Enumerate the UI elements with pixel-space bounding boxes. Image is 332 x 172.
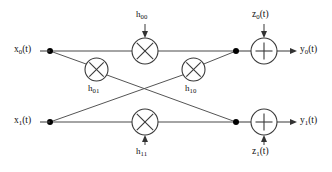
dot-y0-sum <box>233 48 239 54</box>
wire-mult-h01-to-sum-y1 <box>106 75 237 123</box>
signal-flow-canvas <box>0 0 332 172</box>
label-input-x1: x1(t) <box>14 116 31 126</box>
label-noise-z1: z1(t) <box>252 147 269 157</box>
mult-h11 <box>132 109 158 135</box>
wire-mult-h10-to-sum-y0 <box>203 51 237 65</box>
label-output-y1: y1(t) <box>300 116 317 126</box>
label-gain-h10: h10 <box>185 84 196 93</box>
arrow-h11-into-multiplier <box>142 135 148 142</box>
arrow-output-y0 <box>290 48 297 54</box>
mult-h00 <box>132 38 158 64</box>
arrow-h00-into-multiplier <box>142 31 148 38</box>
mult-h01 <box>85 58 108 81</box>
mimo-signal-flow-diagram: x0(t) x1(t) y0(t) y1(t) z0(t) z1(t) h00 … <box>0 0 332 172</box>
adder-y0 <box>251 38 277 64</box>
label-gain-h00: h00 <box>136 10 147 19</box>
label-noise-z0: z0(t) <box>252 10 269 20</box>
arrow-output-y1 <box>290 119 297 125</box>
wire-x1-to-mult-h10 <box>50 75 184 123</box>
arrow-z1-into-adder <box>261 135 267 142</box>
label-input-x0: x0(t) <box>14 45 31 55</box>
arrow-z0-into-adder <box>261 31 267 38</box>
wire-x0-to-mult-h01 <box>50 51 88 65</box>
dot-y1-sum <box>233 119 239 125</box>
mult-h10 <box>182 58 205 81</box>
label-gain-h11: h11 <box>136 147 147 156</box>
adder-y1 <box>251 109 277 135</box>
label-output-y0: y0(t) <box>300 45 317 55</box>
label-gain-h01: h01 <box>88 84 99 93</box>
